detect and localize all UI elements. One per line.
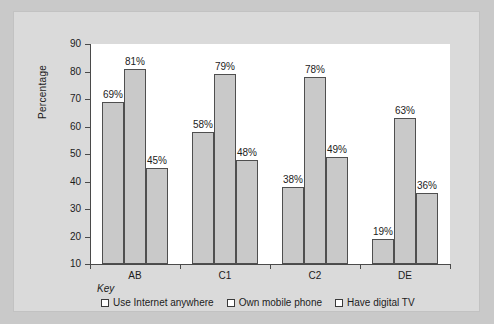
- y-tick-mark: [85, 99, 90, 100]
- bar-value-label: 78%: [295, 64, 335, 75]
- y-tick-label: 50: [59, 149, 81, 159]
- legend-swatch-icon: [227, 299, 235, 307]
- y-tick-mark: [85, 209, 90, 210]
- x-tick-mark: [180, 264, 181, 269]
- y-tick-mark: [85, 182, 90, 183]
- bar: [236, 160, 258, 265]
- y-tick-label: 20: [59, 232, 81, 242]
- y-axis-line: [90, 44, 91, 265]
- bar: [146, 168, 168, 264]
- y-tick-mark: [85, 127, 90, 128]
- y-tick-label: 80: [59, 67, 81, 77]
- legend-item: Use Internet anywhere: [101, 297, 214, 308]
- legend-item: Own mobile phone: [227, 297, 322, 308]
- y-tick-mark: [85, 154, 90, 155]
- bar-value-label: 48%: [227, 147, 267, 158]
- y-tick-label: 40: [59, 177, 81, 187]
- legend-item: Have digital TV: [335, 297, 415, 308]
- bar: [372, 239, 394, 264]
- chart-panel: Percentage 908070605040302010 ABC1C2DE 6…: [13, 11, 480, 312]
- legend-swatch-icon: [101, 299, 109, 307]
- bar: [326, 157, 348, 264]
- legend-label: Have digital TV: [347, 297, 415, 308]
- page-background: Percentage 908070605040302010 ABC1C2DE 6…: [0, 0, 494, 324]
- bar: [416, 193, 438, 265]
- x-category-label: AB: [105, 270, 165, 282]
- bar: [282, 187, 304, 264]
- legend-label: Use Internet anywhere: [113, 297, 214, 308]
- x-category-label: C2: [285, 270, 345, 282]
- x-category-label: DE: [375, 270, 435, 282]
- y-tick-mark: [85, 44, 90, 45]
- key-title: Key: [97, 283, 114, 294]
- bar: [394, 118, 416, 264]
- bar: [102, 102, 124, 264]
- x-tick-mark: [90, 264, 91, 269]
- y-tick-label: 60: [59, 122, 81, 132]
- legend-label: Own mobile phone: [239, 297, 322, 308]
- x-category-label: C1: [195, 270, 255, 282]
- bar-value-label: 79%: [205, 61, 245, 72]
- bar-value-label: 45%: [137, 155, 177, 166]
- y-tick-label: 70: [59, 94, 81, 104]
- bar: [192, 132, 214, 264]
- y-tick-mark: [85, 237, 90, 238]
- bar: [214, 74, 236, 264]
- bar: [304, 77, 326, 264]
- bar-value-label: 36%: [407, 180, 447, 191]
- bar-value-label: 49%: [317, 144, 357, 155]
- y-tick-label: 30: [59, 204, 81, 214]
- x-tick-mark: [360, 264, 361, 269]
- y-tick-mark: [85, 72, 90, 73]
- y-tick-label: 90: [59, 39, 81, 49]
- bar: [124, 69, 146, 264]
- bar-value-label: 63%: [385, 105, 425, 116]
- y-axis-title: Percentage: [37, 65, 48, 119]
- x-tick-mark: [270, 264, 271, 269]
- legend-swatch-icon: [335, 299, 343, 307]
- y-tick-label: 10: [59, 259, 81, 269]
- bar-value-label: 81%: [115, 56, 155, 67]
- chart-legend: Use Internet anywhereOwn mobile phoneHav…: [101, 297, 428, 308]
- x-tick-mark: [450, 264, 451, 269]
